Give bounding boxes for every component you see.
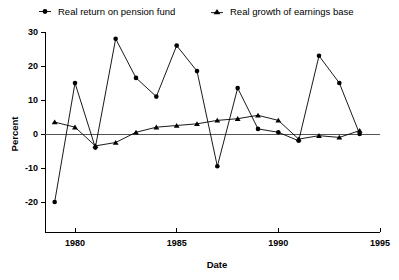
chart-axes bbox=[41, 32, 380, 232]
y-tick-label: 10 bbox=[28, 95, 38, 105]
data-point-circle bbox=[215, 164, 220, 169]
chart-figure: Real return on pension fund Real growth … bbox=[0, 0, 399, 280]
triangle-marker-icon bbox=[214, 9, 221, 14]
data-point-triangle bbox=[113, 140, 119, 145]
y-axis-title: Percent bbox=[9, 116, 20, 152]
y-tick-label: 20 bbox=[28, 61, 38, 71]
x-tick-label: 1980 bbox=[65, 238, 85, 248]
chart-tick-labels: -20-1001020301980198519901995 bbox=[25, 27, 390, 248]
data-point-circle bbox=[73, 81, 78, 86]
legend-label-earnings-base: Real growth of earnings base bbox=[230, 6, 354, 17]
data-point-triangle bbox=[255, 113, 261, 118]
series-line bbox=[55, 39, 360, 202]
legend-label-pension-fund: Real return on pension fund bbox=[58, 6, 175, 17]
chart-series-layer bbox=[52, 37, 363, 205]
y-tick-label: 30 bbox=[28, 27, 38, 37]
series-pension-fund bbox=[52, 37, 362, 205]
x-tick-label: 1990 bbox=[268, 238, 288, 248]
data-point-circle bbox=[154, 94, 159, 99]
x-tick-label: 1995 bbox=[370, 238, 390, 248]
data-point-circle bbox=[337, 81, 342, 86]
data-point-circle bbox=[134, 76, 139, 81]
data-point-circle bbox=[174, 43, 179, 48]
x-axis-title: Date bbox=[207, 259, 228, 270]
y-tick-label: -20 bbox=[25, 197, 38, 207]
x-tick-label: 1985 bbox=[167, 238, 187, 248]
data-point-circle bbox=[256, 127, 261, 132]
chart-legend: Real return on pension fund Real growth … bbox=[39, 6, 354, 17]
data-point-triangle bbox=[52, 120, 58, 125]
legend-entry-pension-fund: Real return on pension fund bbox=[39, 6, 175, 17]
y-tick-label: 0 bbox=[33, 129, 38, 139]
data-point-circle bbox=[276, 130, 281, 135]
data-point-circle bbox=[113, 37, 118, 42]
data-point-circle bbox=[317, 54, 322, 59]
legend-entry-earnings-base: Real growth of earnings base bbox=[211, 6, 354, 17]
y-tick-label: -10 bbox=[25, 163, 38, 173]
data-point-circle bbox=[52, 200, 57, 205]
chart-container: Real return on pension fund Real growth … bbox=[0, 0, 399, 280]
data-point-circle bbox=[235, 86, 240, 91]
data-point-circle bbox=[195, 69, 200, 74]
